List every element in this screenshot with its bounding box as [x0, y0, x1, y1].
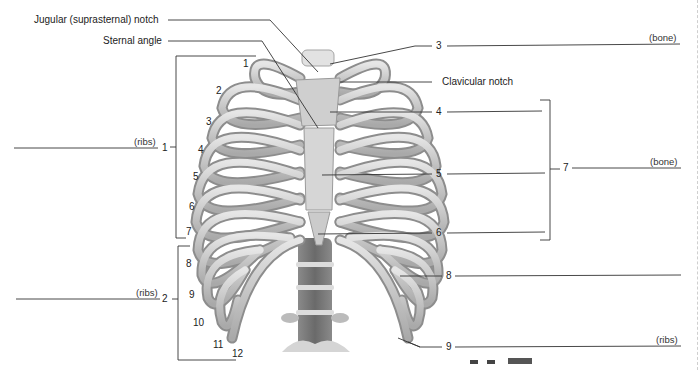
rib-number-6: 6 [189, 201, 195, 213]
rib-number-7: 7 [186, 226, 192, 238]
callout-3-number: 3 [436, 40, 442, 52]
callout-4-number: 4 [436, 106, 442, 118]
rib-number-5: 5 [193, 171, 199, 183]
rib-number-4: 4 [198, 144, 204, 156]
thoracic-cage-illustration [0, 0, 700, 370]
callout-1-hint: (ribs) [134, 136, 156, 147]
callout-1-number: 1 [162, 142, 168, 154]
rib-number-1: 1 [243, 58, 249, 70]
label-sternal-angle: Sternal angle [103, 35, 162, 47]
rib-number-3: 3 [206, 116, 212, 128]
label-clavicular-notch: Clavicular notch [442, 76, 513, 88]
rib-number-11: 11 [213, 339, 223, 351]
callout-6-number: 6 [436, 227, 442, 239]
vertebral-column [281, 238, 350, 352]
callout-9-hint: (ribs) [656, 334, 678, 345]
rib-number-8: 8 [186, 258, 192, 270]
rib-number-9: 9 [189, 289, 195, 301]
callout-5-number: 5 [436, 168, 442, 180]
page-edge-divider [697, 0, 698, 370]
callout-8-number: 8 [446, 270, 452, 282]
callout-7-number: 7 [563, 162, 569, 174]
callout-2-number: 2 [162, 293, 168, 305]
rib-number-12: 12 [232, 348, 243, 360]
label-jugular-notch: Jugular (suprasternal) notch [34, 14, 159, 26]
callout-3-hint: (bone) [649, 32, 676, 43]
callout-2-hint: (ribs) [136, 287, 158, 298]
callout-7-hint: (bone) [650, 156, 677, 167]
callout-9-number: 9 [446, 341, 452, 353]
rib-number-2: 2 [216, 85, 222, 97]
rib-number-10: 10 [193, 317, 204, 329]
